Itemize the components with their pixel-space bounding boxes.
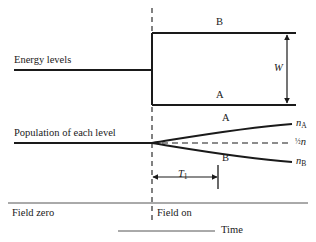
- time-axis-label: Time: [221, 225, 243, 236]
- population-curve-label-A: A: [222, 113, 230, 124]
- lower-level-label-A: A: [216, 90, 224, 101]
- nB-subscript: B: [301, 159, 306, 168]
- field-zero-label: Field zero: [12, 208, 54, 219]
- energy-gap-label-W: W: [274, 63, 283, 74]
- equilibrium-population-label: ½n: [295, 137, 306, 148]
- population-value-label-nB: nB: [296, 156, 306, 167]
- field-on-label: Field on: [157, 208, 192, 219]
- energy-level-population-diagram: [0, 0, 316, 242]
- population-value-label-nA: nA: [296, 118, 307, 129]
- population-curve-A: [152, 124, 292, 143]
- T-subscript: 1: [184, 172, 188, 181]
- upper-level-label-B: B: [216, 17, 223, 28]
- relaxation-time-label-T1: T1: [178, 169, 188, 180]
- population-curve-label-B: B: [222, 153, 229, 164]
- n-symbol: n: [301, 136, 306, 147]
- energy-levels-row-label: Energy levels: [14, 55, 71, 66]
- nA-subscript: A: [301, 121, 306, 130]
- population-row-label: Population of each level: [14, 128, 116, 139]
